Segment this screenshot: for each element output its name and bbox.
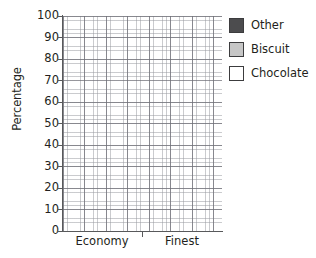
y-tick-label-50: 50 <box>33 118 59 130</box>
x-tick-label-finest: Finest <box>165 235 199 247</box>
y-axis-line <box>62 15 63 232</box>
y-tick-label-10: 10 <box>33 204 59 216</box>
y-tick-label-90: 90 <box>33 32 59 44</box>
legend-item-biscuit: Biscuit <box>229 37 316 61</box>
legend-label-other: Other <box>251 19 284 31</box>
x-tick-mark-divider <box>142 232 143 237</box>
legend-item-chocolate: Chocolate <box>229 61 316 85</box>
y-axis-title: Percentage <box>10 49 24 149</box>
legend-swatch-other-icon <box>229 18 244 33</box>
y-axis-tick-labels: 100 90 80 70 60 50 40 30 20 10 0 <box>33 0 59 258</box>
y-tick-label-80: 80 <box>33 53 59 65</box>
y-tick-label-30: 30 <box>33 161 59 173</box>
legend-label-biscuit: Biscuit <box>251 43 289 55</box>
chart-legend: Other Biscuit Chocolate <box>229 13 316 85</box>
legend-swatch-chocolate-icon <box>229 66 244 81</box>
percentage-bar-chart: Percentage 100 90 80 70 60 50 40 30 20 1… <box>0 0 316 258</box>
y-tick-label-70: 70 <box>33 75 59 87</box>
y-tick-label-20: 20 <box>33 182 59 194</box>
y-tick-label-60: 60 <box>33 96 59 108</box>
y-tick-label-0: 0 <box>33 225 59 237</box>
legend-label-chocolate: Chocolate <box>251 67 309 79</box>
y-tick-label-100: 100 <box>33 10 59 22</box>
plot-grid-area <box>63 16 222 231</box>
legend-item-other: Other <box>229 13 316 37</box>
legend-swatch-biscuit-icon <box>229 42 244 57</box>
x-tick-label-economy: Economy <box>76 235 129 247</box>
y-tick-label-40: 40 <box>33 139 59 151</box>
